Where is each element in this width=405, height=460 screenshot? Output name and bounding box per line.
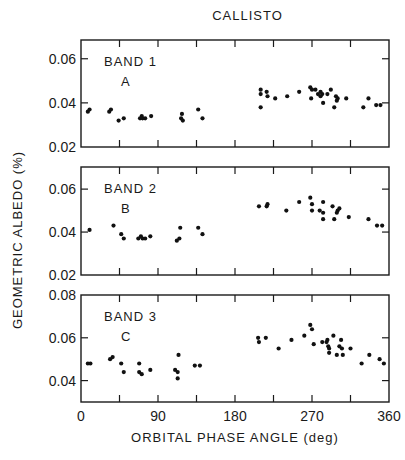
data-point xyxy=(178,226,182,230)
y-tick-label: 0.06 xyxy=(49,181,76,197)
data-point xyxy=(284,208,288,212)
data-point xyxy=(140,372,144,376)
data-point xyxy=(297,200,301,204)
data-point xyxy=(367,353,371,357)
data-point xyxy=(289,338,293,342)
x-tick-label: 180 xyxy=(223,408,247,424)
y-tick-label: 0.02 xyxy=(49,267,76,283)
panel-band-1: 0.020.040.06BAND 1A xyxy=(49,40,389,155)
data-point xyxy=(198,364,202,368)
y-tick-label: 0.06 xyxy=(49,330,76,346)
data-point xyxy=(148,234,152,238)
data-point xyxy=(378,103,382,107)
data-point xyxy=(176,370,180,374)
data-point xyxy=(308,196,312,200)
x-tick-label: 360 xyxy=(377,408,401,424)
data-point xyxy=(273,96,277,100)
data-point xyxy=(176,353,180,357)
data-point xyxy=(109,107,113,111)
data-point xyxy=(310,208,314,212)
data-point xyxy=(180,112,184,116)
data-point xyxy=(347,215,351,219)
data-point xyxy=(259,105,263,109)
data-point xyxy=(87,228,91,232)
panel-band-2: 0.020.040.06BAND 2B xyxy=(49,167,389,283)
band-sublabel: B xyxy=(121,201,131,216)
data-point xyxy=(348,346,352,350)
data-point xyxy=(257,204,261,208)
data-point xyxy=(321,101,325,105)
data-point xyxy=(297,90,301,94)
data-point xyxy=(374,103,378,107)
data-point xyxy=(332,217,336,221)
data-point xyxy=(327,351,331,355)
data-point xyxy=(177,236,181,240)
data-point xyxy=(87,107,91,111)
y-tick-label: 0.04 xyxy=(49,95,76,111)
data-point xyxy=(256,336,260,340)
y-tick-label: 0.06 xyxy=(49,51,76,67)
data-point xyxy=(321,217,325,221)
data-point xyxy=(119,232,123,236)
data-point xyxy=(340,346,344,350)
data-point xyxy=(111,355,115,359)
data-point xyxy=(377,357,381,361)
data-point xyxy=(366,96,370,100)
data-point xyxy=(320,92,324,96)
data-point xyxy=(325,92,329,96)
y-tick-label: 0.02 xyxy=(49,139,76,155)
data-point xyxy=(310,327,314,331)
data-point xyxy=(259,92,263,96)
data-point xyxy=(143,236,147,240)
band-label: BAND 3 xyxy=(104,309,157,324)
data-point xyxy=(285,94,289,98)
data-point xyxy=(330,204,334,208)
band-label: BAND 1 xyxy=(104,54,157,69)
data-point xyxy=(137,361,141,365)
data-point xyxy=(380,224,384,228)
data-point xyxy=(320,340,324,344)
data-point xyxy=(344,96,348,100)
y-tick-label: 0.04 xyxy=(49,224,76,240)
data-point xyxy=(331,334,335,338)
band-sublabel: C xyxy=(121,329,131,344)
band-sublabel: A xyxy=(121,74,131,89)
band-label: BAND 2 xyxy=(104,181,157,196)
data-point xyxy=(335,353,339,357)
y-tick-label: 0.08 xyxy=(49,287,76,303)
data-point xyxy=(200,116,204,120)
data-point xyxy=(193,364,197,368)
data-point xyxy=(122,236,126,240)
data-point xyxy=(259,88,263,92)
data-point xyxy=(200,232,204,236)
data-point xyxy=(176,376,180,380)
data-point xyxy=(321,211,325,215)
data-point xyxy=(143,116,147,120)
data-point xyxy=(88,361,92,365)
data-point xyxy=(321,200,325,204)
data-point xyxy=(181,118,185,122)
data-point xyxy=(327,346,331,350)
y-tick-label: 0.04 xyxy=(49,373,76,389)
data-point xyxy=(309,96,313,100)
data-point xyxy=(257,340,261,344)
plot-area: 0.020.040.06BAND 1A0.020.040.06BAND 2B0.… xyxy=(0,0,405,460)
data-point xyxy=(265,94,269,98)
data-point xyxy=(312,342,316,346)
data-point xyxy=(339,338,343,342)
data-point xyxy=(196,107,200,111)
data-point xyxy=(366,217,370,221)
data-point xyxy=(310,202,314,206)
data-point xyxy=(313,88,317,92)
data-point xyxy=(382,361,386,365)
data-point xyxy=(332,105,336,109)
data-point xyxy=(341,353,345,357)
data-point xyxy=(336,96,340,100)
data-point xyxy=(117,118,121,122)
data-point xyxy=(265,202,269,206)
data-point xyxy=(196,226,200,230)
data-point xyxy=(122,116,126,120)
data-point xyxy=(360,361,364,365)
data-point xyxy=(119,361,123,365)
data-point xyxy=(149,114,153,118)
